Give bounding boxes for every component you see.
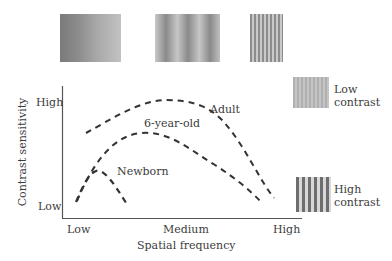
newborn-label: Newborn (117, 166, 169, 178)
high-contrast-swatch (296, 177, 331, 212)
x-tick-high: High (273, 224, 300, 236)
high-contrast-label: High contrast (334, 184, 380, 209)
high-contrast-line1: High (334, 184, 380, 197)
six-year-old-label: 6-year-old (144, 118, 200, 130)
y-axis-label: Contrast sensitivity (16, 98, 29, 207)
x-axis-label: Spatial frequency (137, 240, 236, 252)
low-contrast-line1: Low (334, 84, 380, 97)
x-tick-low: Low (67, 224, 90, 236)
contrast-sensitivity-chart (0, 0, 392, 261)
six-year-old-curve (77, 133, 262, 203)
y-tick-low: Low (38, 201, 61, 213)
adult-label: Adult (210, 104, 240, 116)
high-contrast-line2: contrast (334, 197, 380, 210)
x-tick-medium: Medium (163, 224, 209, 236)
low-contrast-label: Low contrast (334, 84, 380, 109)
y-tick-high: High (36, 97, 63, 109)
low-contrast-swatch (293, 77, 329, 108)
low-contrast-line2: contrast (334, 97, 380, 110)
